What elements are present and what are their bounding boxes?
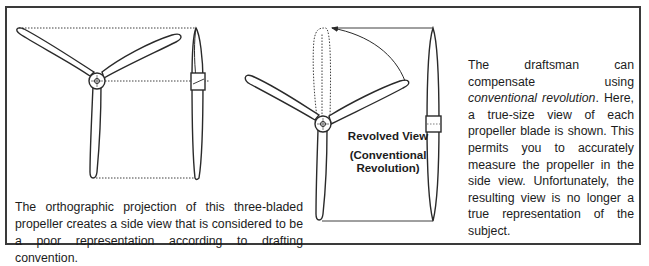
conventional-revolution-caption: The draftsman can compensate using conve… [468,57,634,240]
orthographic-side-view [191,28,205,180]
revolved-view-label: Revolved View (Conventional Revolution) [340,129,436,175]
blade-upper-left [17,28,94,76]
orthographic-caption: The orthographic projection of this thre… [15,199,303,266]
revolved-view-title: Revolved View [340,129,436,143]
blade-upper-right [102,34,181,78]
revolved-projection-lines [322,28,433,221]
front-view-propeller [17,28,181,178]
subtitle-line-2: Revolution) [356,162,419,174]
subtitle-line-1: (Conventional [350,149,427,161]
caption-emphasis: conventional revolution [468,91,595,105]
revolution-arrow [332,28,405,81]
caption-part-2: . Here, a true-size view of each propell… [468,91,634,238]
revolved-view-subtitle: (Conventional Revolution) [340,149,436,175]
blade-lower [90,86,101,178]
revolved-side-view [426,28,441,221]
revolved-front-view-propeller [245,28,408,220]
caption-part-1: The draftsman can compensate using [468,58,634,89]
